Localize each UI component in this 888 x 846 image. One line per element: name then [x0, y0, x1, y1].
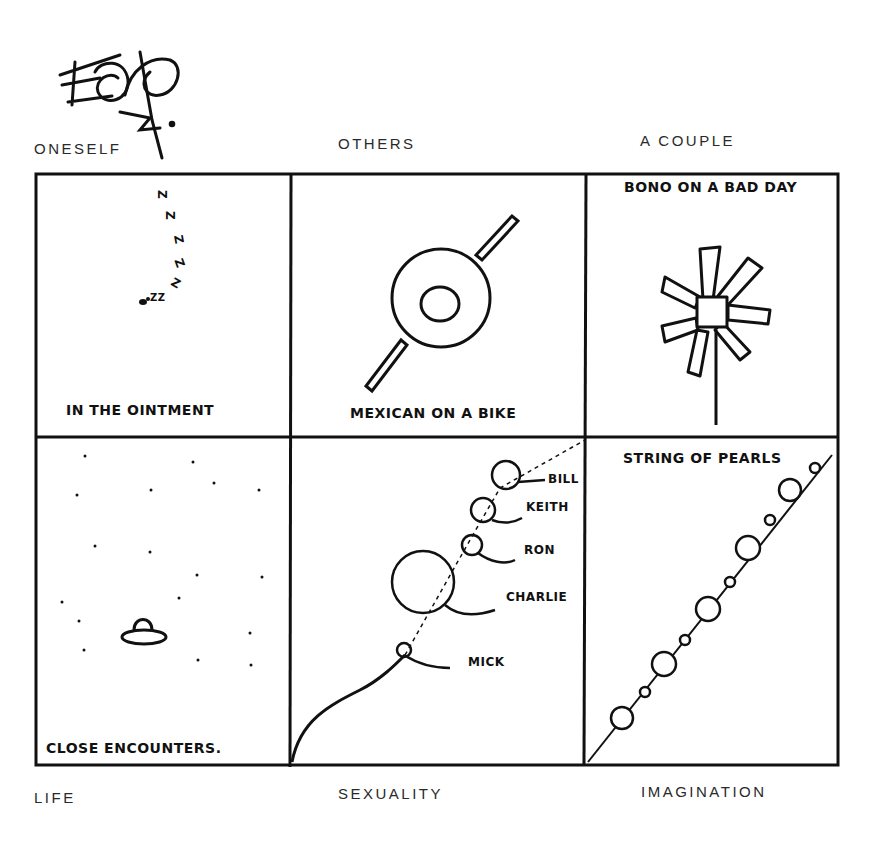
label-a-couple: A COUPLE — [640, 132, 735, 149]
fly-icon — [139, 297, 150, 305]
zzz: Z — [155, 190, 169, 199]
pearls-icon — [588, 455, 832, 762]
caption-bono-on-a-bad-day: BONO ON A BAD DAY — [624, 179, 797, 195]
label-life: LIFE — [34, 789, 76, 806]
name-mick: MICK — [468, 655, 505, 669]
stars — [61, 455, 264, 667]
caption-mexican-on-a-bike: MEXICAN ON A BIKE — [350, 405, 516, 421]
caption-in-the-ointment: IN THE OINTMENT — [66, 402, 214, 418]
zzz: Z — [163, 211, 177, 220]
ufo-icon — [122, 620, 166, 645]
name-bill: BILL — [548, 472, 579, 486]
caption-string-of-pearls: STRING OF PEARLS — [623, 450, 782, 466]
name-keith: KEITH — [526, 500, 569, 514]
label-sexuality: SEXUALITY — [338, 785, 443, 802]
name-charlie: CHARLIE — [506, 590, 567, 604]
sombrero-icon — [366, 216, 518, 391]
label-oneself: ONESELF — [34, 140, 122, 157]
label-others: OTHERS — [338, 135, 416, 152]
zzz: ZZ — [150, 292, 166, 303]
name-ron: RON — [524, 543, 555, 557]
caption-close-encounters: CLOSE ENCOUNTERS. — [46, 740, 221, 756]
flower-icon — [662, 247, 770, 425]
sketch-grid — [0, 0, 888, 846]
label-imagination: IMAGINATION — [641, 783, 767, 800]
